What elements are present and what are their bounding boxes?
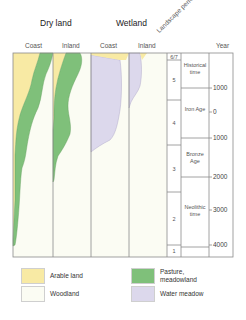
period-4: 4 (167, 120, 181, 127)
year-tick-1000-bc: 1000 (213, 134, 227, 141)
legend-label-arable: Arable land (50, 272, 83, 280)
period-3: 3 (167, 166, 181, 173)
legend-swatch-pasture (131, 268, 155, 284)
culture-historical: Historical time (182, 62, 208, 75)
culture-iron-age: Iron Age (184, 106, 206, 113)
legend-swatch-arable (21, 268, 45, 284)
period-2: 2 (167, 216, 181, 223)
culture-bronze-age: Bronze Age (182, 151, 208, 164)
legend-swatch-water-meadow (131, 286, 155, 302)
year-tick-0: 0 (213, 108, 217, 115)
legend-label-woodland: Woodland (50, 290, 79, 298)
legend-swatch-woodland (21, 286, 45, 302)
period-5: 5 (167, 77, 181, 84)
period-1: 1 (167, 248, 181, 255)
year-tick-1000-ad: 1000 (213, 84, 227, 91)
year-tick-2000: 2000 (213, 173, 227, 180)
culture-neolithic: Neolithic time (182, 204, 208, 217)
year-tick-4000: 4000 (213, 241, 227, 248)
year-tick-3000: 3000 (213, 206, 227, 213)
legend-label-pasture: Pasture, meadowland (160, 268, 220, 283)
legend-label-water-meadow: Water meadow (160, 290, 203, 298)
period-6-7: 6/7 (167, 54, 181, 61)
